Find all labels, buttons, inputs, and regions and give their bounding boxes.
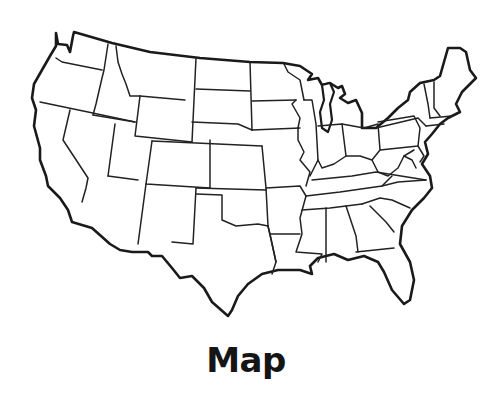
us-states-map <box>0 0 492 330</box>
map-caption: Map <box>0 340 492 380</box>
us-outline <box>32 32 476 316</box>
us-map-svg <box>0 0 492 330</box>
